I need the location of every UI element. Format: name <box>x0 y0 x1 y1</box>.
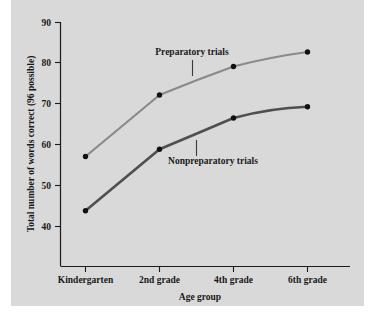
x-axis-ticks <box>86 267 308 273</box>
figure-container: 90 80 70 60 50 40 Kindergarten 2nd grade… <box>0 0 376 322</box>
x-tick-label-4th-grade: 4th grade <box>214 275 253 285</box>
data-point-nonpreparatory-4th-grade <box>231 115 236 120</box>
x-tick-label-6th-grade: 6th grade <box>288 275 327 285</box>
x-tick-label-kindergarten: Kindergarten <box>58 275 114 285</box>
y-tick-label-50: 50 <box>42 181 52 191</box>
y-axis-title: Total number of words correct (96 possib… <box>26 56 37 233</box>
y-tick-label-60: 60 <box>42 140 52 150</box>
series-label-nonpreparatory: Nonpreparatory trials <box>168 156 258 166</box>
data-point-nonpreparatory-6th-grade <box>305 104 310 109</box>
data-point-preparatory-6th-grade <box>305 49 310 54</box>
x-tick-label-2nd-grade: 2nd grade <box>139 275 180 285</box>
y-tick-label-90: 90 <box>42 18 52 28</box>
y-tick-label-70: 70 <box>42 99 52 109</box>
x-axis-title: Age group <box>179 292 221 302</box>
line-chart: 90 80 70 60 50 40 Kindergarten 2nd grade… <box>0 0 376 322</box>
data-point-nonpreparatory-kindergarten <box>83 208 88 213</box>
data-point-nonpreparatory-2nd-grade <box>157 147 162 152</box>
y-tick-label-40: 40 <box>42 222 52 232</box>
y-axis-ticks <box>55 23 61 227</box>
series-label-preparatory: Preparatory trials <box>155 47 229 57</box>
y-tick-label-80: 80 <box>42 58 52 68</box>
data-point-preparatory-kindergarten <box>83 154 88 159</box>
data-point-preparatory-2nd-grade <box>157 92 162 97</box>
data-point-preparatory-4th-grade <box>231 64 236 69</box>
